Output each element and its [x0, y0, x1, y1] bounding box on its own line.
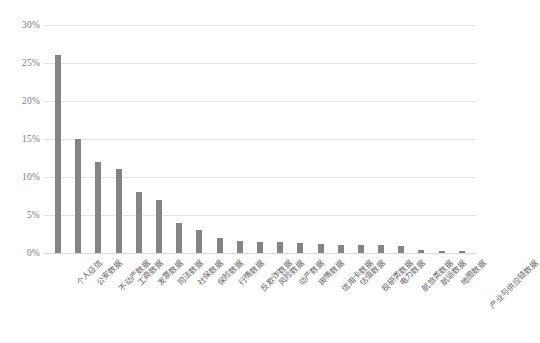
bar-slot — [371, 25, 391, 253]
bar[interactable] — [318, 244, 324, 253]
bar[interactable] — [196, 230, 202, 253]
bar[interactable] — [418, 250, 424, 253]
bar-slot — [290, 25, 310, 253]
bar[interactable] — [237, 241, 243, 253]
y-axis-tick-label: 0% — [0, 248, 40, 258]
bar-slot — [88, 25, 108, 253]
bar[interactable] — [297, 243, 303, 253]
bar-slot — [210, 25, 230, 253]
bar[interactable] — [55, 55, 61, 253]
bar[interactable] — [459, 251, 465, 253]
y-axis-tick-label: 15% — [0, 134, 40, 144]
bar-slot — [48, 25, 68, 253]
y-axis-tick-label: 25% — [0, 58, 40, 68]
bar[interactable] — [338, 245, 344, 253]
bar-slot — [230, 25, 250, 253]
y-axis-tick-label: 10% — [0, 172, 40, 182]
bar[interactable] — [176, 223, 182, 253]
bar[interactable] — [257, 242, 263, 253]
bar[interactable] — [136, 192, 142, 253]
bar[interactable] — [398, 246, 404, 253]
bar-slot — [351, 25, 371, 253]
bar-slot — [432, 25, 452, 253]
x-axis-label: 产业与供应链数据 — [487, 257, 540, 310]
bar[interactable] — [439, 251, 445, 253]
bar-slot — [310, 25, 330, 253]
bar-slot — [411, 25, 431, 253]
bar-slot — [68, 25, 88, 253]
bar[interactable] — [378, 245, 384, 253]
bar-slot — [129, 25, 149, 253]
bar[interactable] — [75, 139, 81, 253]
bar-slot — [452, 25, 472, 253]
x-axis-labels: 个人征信公安数据不动产数据工商数据发票数据司法数据社保数据保险数据行情数据反欺诈… — [44, 254, 476, 343]
bar[interactable] — [217, 238, 223, 253]
bar[interactable] — [277, 242, 283, 253]
bar[interactable] — [358, 245, 364, 253]
bar-slot — [189, 25, 209, 253]
bar-slot — [270, 25, 290, 253]
bar-slot — [109, 25, 129, 253]
bar-slot — [149, 25, 169, 253]
bar-slot — [331, 25, 351, 253]
y-axis-tick-label: 5% — [0, 210, 40, 220]
bar[interactable] — [95, 162, 101, 253]
bar[interactable] — [156, 200, 162, 253]
y-axis-tick-label: 20% — [0, 96, 40, 106]
bar-series — [44, 25, 476, 253]
bar-slot — [250, 25, 270, 253]
bar[interactable] — [116, 169, 122, 253]
y-axis-tick-label: 30% — [0, 20, 40, 30]
bar-slot — [169, 25, 189, 253]
bar-slot — [391, 25, 411, 253]
